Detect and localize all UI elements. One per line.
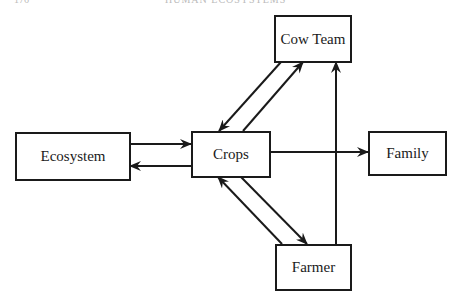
node-farmer: Farmer [275, 244, 352, 291]
diagram-canvas: 176 HUMAN ECOSYSTEMS Cow Team E [0, 0, 460, 307]
node-family: Family [368, 131, 447, 176]
node-crops: Crops [191, 131, 271, 178]
node-cow-team: Cow Team [274, 15, 352, 63]
node-ecosystem: Ecosystem [15, 132, 131, 181]
